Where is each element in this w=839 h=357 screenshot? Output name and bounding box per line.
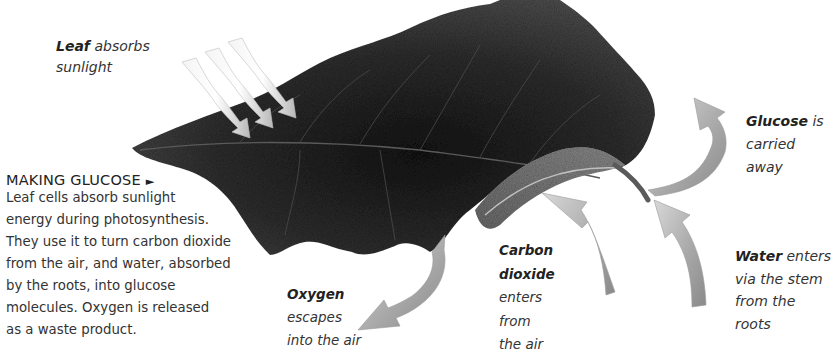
label-sunlight-text: absorbs [94,38,149,54]
caption-heading: MAKING GLUCOSE ► [6,172,276,188]
water-arrow-icon [654,200,706,307]
leaf-stem [615,165,648,200]
label-oxygen-text: into the air [287,329,361,352]
caption-line: as a waste product. [6,319,276,341]
label-carbon-dioxide-text: from [499,310,555,334]
label-water-text: from the [735,290,831,313]
label-sunlight-text: sunlight [56,57,150,78]
caption-block: MAKING GLUCOSE ► Leaf cells absorb sunli… [6,172,276,341]
caption-line: Leaf cells absorb sunlight [6,187,276,209]
caption-line: from the air, and water, absorbed [6,253,276,275]
label-glucose-text: away [746,156,824,179]
caption-body: Leaf cells absorb sunlight energy during… [6,187,276,341]
label-water-text: roots [735,313,831,336]
label-sunlight-bold: Leaf [56,38,90,54]
glucose-arrow-icon [648,98,726,196]
label-oxygen-bold: Oxygen [287,286,344,302]
label-glucose-text: is [812,113,823,129]
label-water-text: via the stem [735,268,831,291]
label-carbon-dioxide-text: enters [499,286,555,310]
label-carbon-dioxide-bold: dioxide [499,266,555,282]
caption-line: by the roots, into glucose [6,275,276,297]
label-carbon-dioxide: Carbon dioxide enters from the air [499,239,555,357]
label-glucose-bold: Glucose [746,113,808,129]
label-carbon-dioxide-text: the air [499,333,555,357]
caption-line: molecules. Oxygen is released [6,297,276,319]
label-sunlight: Leaf absorbs sunlight [56,36,150,78]
label-water-text: enters [786,248,831,264]
caption-line: energy during photosynthesis. [6,209,276,231]
caption-heading-text: MAKING GLUCOSE [6,172,141,188]
label-carbon-dioxide-bold: Carbon [499,242,553,258]
label-water: Water enters via the stem from the roots [735,245,831,335]
cropped-caption-top [600,0,839,2]
label-oxygen: Oxygen escapes into the air [287,283,361,352]
label-water-bold: Water [735,248,782,264]
label-glucose: Glucose is carried away [746,110,824,179]
label-oxygen-text: escapes [287,306,361,329]
caption-line: They use it to turn carbon dioxide [6,231,276,253]
label-glucose-text: carried [746,133,824,156]
